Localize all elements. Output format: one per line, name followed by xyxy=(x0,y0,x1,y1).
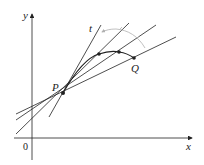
rotation-arc xyxy=(102,29,145,48)
secant-line-3 xyxy=(16,37,176,114)
point-P xyxy=(61,91,65,95)
point-P-label: P xyxy=(51,81,59,93)
tangent-label-t: t xyxy=(89,22,93,34)
tangent-secant-diagram: y x 0 t P Q xyxy=(0,0,204,165)
point-Q xyxy=(132,56,136,60)
arc-tick-1 xyxy=(120,27,122,29)
tangent-line-t xyxy=(49,25,101,117)
x-axis-label: x xyxy=(185,140,191,152)
point-intermediate-1 xyxy=(97,52,101,56)
point-intermediate-2 xyxy=(117,50,121,54)
y-axis-label: y xyxy=(22,9,28,21)
origin-label: 0 xyxy=(23,141,28,152)
point-Q-label: Q xyxy=(131,62,139,74)
curve xyxy=(63,51,134,93)
